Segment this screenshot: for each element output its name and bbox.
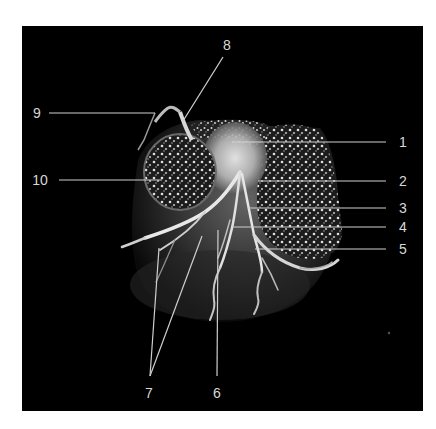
label-5: 5 <box>399 242 407 256</box>
label-1: 1 <box>399 135 407 149</box>
ct-angiography-figure: 1 2 3 4 5 6 7 8 9 10 <box>0 0 436 429</box>
label-7: 7 <box>145 386 153 400</box>
label-10: 10 <box>32 173 48 187</box>
leader-8 <box>183 57 223 121</box>
heart-rendering <box>0 0 436 429</box>
label-4: 4 <box>399 220 407 234</box>
label-6: 6 <box>213 386 221 400</box>
label-3: 3 <box>399 201 407 215</box>
label-2: 2 <box>399 174 407 188</box>
label-8: 8 <box>223 38 231 52</box>
vessel-8 <box>155 107 180 122</box>
label-9: 9 <box>33 106 41 120</box>
